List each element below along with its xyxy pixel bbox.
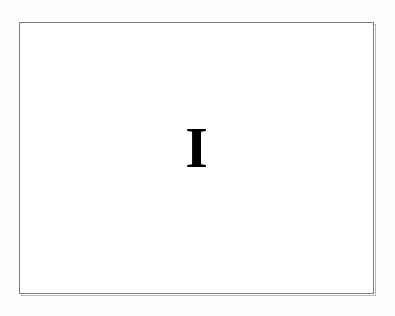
page-content-area: I [20, 23, 373, 293]
content-frame: I [19, 22, 374, 294]
page-canvas: I [0, 0, 395, 316]
folio-numeral: I [20, 119, 373, 177]
